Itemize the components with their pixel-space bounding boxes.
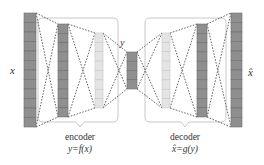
neuron-cell [24, 70, 36, 80]
neuron-cell [24, 51, 36, 61]
connection-line [170, 108, 197, 117]
layer-input [24, 13, 36, 127]
connection-line [170, 24, 197, 33]
neuron-cell [95, 52, 103, 61]
layer-encoder-hidden-2 [95, 33, 103, 108]
connection-line [68, 33, 95, 117]
encoder-bracket [38, 18, 118, 127]
neuron-cell [231, 89, 242, 99]
autoencoder-diagram: x y x̂ encoder y=f(x) decoder x̂=g(y) [0, 0, 264, 165]
neuron-cell [231, 32, 242, 42]
encoder-label: encoder [65, 132, 96, 142]
neuron-cell [95, 71, 103, 80]
connection-line [207, 13, 231, 117]
neuron-cell [197, 52, 207, 61]
neuron-cell [95, 33, 103, 42]
neuron-cell [197, 24, 207, 33]
connection-line [36, 13, 58, 117]
neuron-cell [231, 23, 242, 33]
neuron-cell [197, 33, 207, 42]
layer-encoder-hidden-1 [58, 24, 68, 117]
neuron-cell [231, 51, 242, 61]
neuron-cell [58, 24, 68, 33]
neuron-cell [127, 80, 137, 89]
neuron-cell [197, 98, 207, 107]
neuron-cell [162, 33, 170, 42]
layer-output [231, 13, 242, 127]
neuron-cell [197, 61, 207, 70]
input-label: x [9, 64, 15, 76]
neuron-cell [127, 71, 137, 80]
neuron-cell [24, 99, 36, 109]
neuron-cell [58, 80, 68, 89]
neuron-cell [58, 98, 68, 107]
neuron-cell [162, 71, 170, 80]
neuron-cell [231, 42, 242, 52]
neuron-cell [162, 52, 170, 61]
neuron-cell [231, 118, 242, 128]
neuron-cell [127, 61, 137, 70]
decoder-label: decoder [170, 132, 201, 142]
decoder-formula: x̂=g(y) [171, 144, 198, 155]
neuron-cell [162, 99, 170, 108]
connection-line [207, 24, 231, 127]
neuron-cell [95, 99, 103, 108]
neuron-cell [24, 61, 36, 71]
neuron-cell [58, 71, 68, 80]
neuron-cell [24, 13, 36, 23]
neuron-cell [197, 43, 207, 52]
neuron-cell [24, 80, 36, 90]
neuron-cell [127, 52, 137, 61]
neuron-cell [24, 108, 36, 118]
output-label: x̂ [247, 66, 253, 78]
neuron-cell [95, 42, 103, 51]
neuron-cell [95, 89, 103, 98]
neuron-cell [58, 61, 68, 70]
connection-line [170, 33, 197, 117]
encoder-formula: y=f(x) [67, 144, 92, 155]
neuron-cell [24, 89, 36, 99]
neuron-cell [24, 32, 36, 42]
neuron-cell [24, 118, 36, 128]
neuron-cell [58, 43, 68, 52]
neuron-cell [197, 71, 207, 80]
neuron-cell [197, 89, 207, 98]
connection-line [170, 24, 197, 108]
neuron-cell [162, 42, 170, 51]
connection-line [36, 24, 58, 127]
neuron-cell [24, 42, 36, 52]
neuron-cell [231, 61, 242, 71]
neuron-cell [162, 89, 170, 98]
neuron-cell [162, 61, 170, 70]
code-label: y [119, 37, 125, 48]
neuron-cell [231, 13, 242, 23]
neuron-cell [231, 70, 242, 80]
neuron-cell [58, 33, 68, 42]
neuron-cell [58, 89, 68, 98]
neuron-cell [58, 52, 68, 61]
layer-decoder-hidden-2 [197, 24, 207, 117]
layer-code [127, 52, 137, 89]
connection-line [68, 24, 95, 33]
neuron-cell [24, 23, 36, 33]
neuron-cell [162, 80, 170, 89]
decoder-bracket [145, 18, 226, 127]
connection-line [68, 24, 95, 108]
neuron-cell [231, 99, 242, 109]
neuron-cell [95, 80, 103, 89]
connection-line [68, 108, 95, 117]
neuron-cell [95, 61, 103, 70]
neuron-cell [58, 108, 68, 117]
neuron-cell [197, 108, 207, 117]
layer-decoder-hidden-1 [162, 33, 170, 108]
neuron-cell [231, 108, 242, 118]
neuron-cell [231, 80, 242, 90]
neuron-cell [197, 80, 207, 89]
